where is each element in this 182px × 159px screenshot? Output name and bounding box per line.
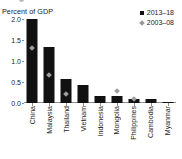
x-axis-category-label: Malaysia	[46, 106, 53, 134]
bar	[94, 96, 105, 103]
plot-area: 0.00.51.01.52.0	[24, 19, 176, 103]
bar	[111, 96, 122, 103]
x-axis-category-label: Vietnam	[80, 106, 87, 132]
x-axis-category-label: Cambodia	[147, 106, 154, 138]
bar	[78, 85, 89, 103]
bar-slot	[142, 19, 159, 103]
bar-slot	[159, 19, 176, 103]
legend-item-2013-18: 2013–18	[140, 8, 174, 17]
x-axis-category-label: Mongolia	[113, 106, 120, 134]
bar	[27, 19, 38, 103]
bar-slot	[75, 19, 92, 103]
x-axis-category-label: Philippines	[130, 106, 137, 140]
bar-slot	[58, 19, 75, 103]
legend-label: 2013–18	[147, 9, 174, 16]
y-tick-label: 0.5	[11, 79, 21, 86]
x-axis-category-label: China	[29, 106, 36, 124]
y-tick-label: 1.0	[11, 58, 21, 65]
y-tick-label: 2.0	[11, 16, 21, 23]
x-axis-category-label: Indonesia	[97, 106, 104, 136]
x-axis-category-label: Thailand	[63, 106, 70, 133]
y-tick-mark	[22, 103, 24, 104]
bar-slot	[108, 19, 125, 103]
y-tick-label: 1.5	[11, 37, 21, 44]
bar-slot	[41, 19, 58, 103]
chart-figure: Percent of GDP 2013–18 2003–08 0.00.51.0…	[0, 0, 182, 159]
data-point-marker	[114, 88, 120, 94]
chart-axis-title: Percent of GDP	[2, 7, 53, 16]
square-marker-icon	[140, 11, 144, 15]
y-tick-label: 0.0	[11, 100, 21, 107]
bar-slot	[24, 19, 41, 103]
x-axis-category-label: Myanmar	[164, 106, 171, 135]
bar-slot	[92, 19, 109, 103]
bar-slot	[125, 19, 142, 103]
clipped-marker-icon	[19, 0, 24, 2]
